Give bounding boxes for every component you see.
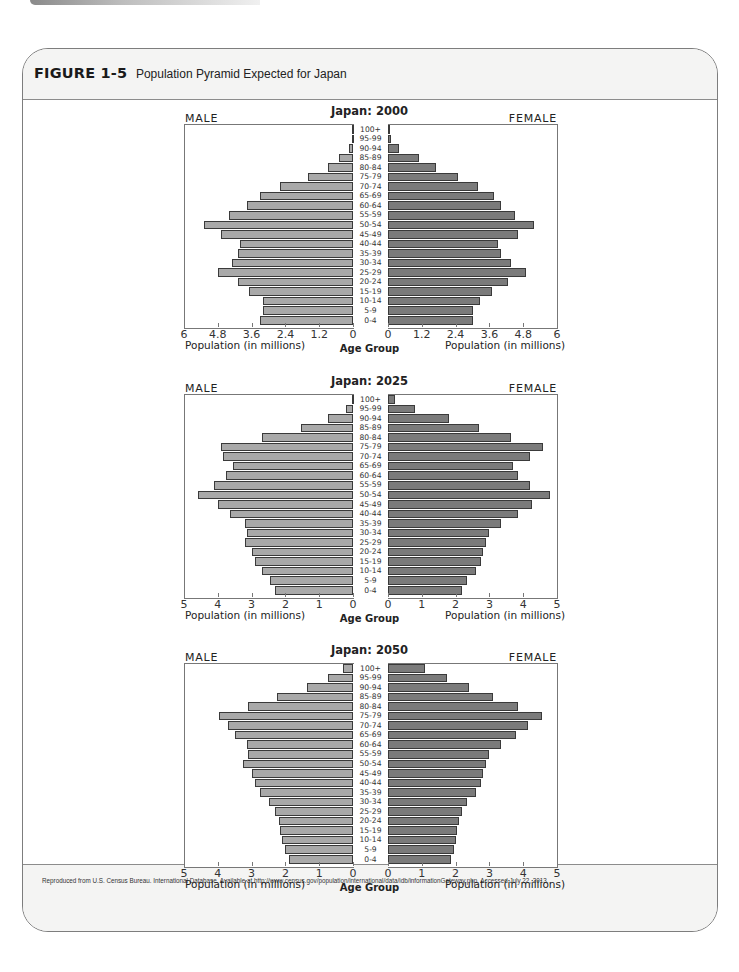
age-group-axis-title: Age Group	[0, 882, 739, 893]
age-group-label: 5-9	[353, 845, 388, 855]
age-group-label: 20-24	[353, 547, 388, 557]
age-group-label: 30-34	[353, 797, 388, 807]
male-bar	[247, 529, 353, 538]
male-bar	[249, 287, 353, 296]
male-bar	[308, 173, 353, 182]
male-bar	[226, 471, 353, 480]
pyramid-2050: Japan: 2050MALEFEMALE100+95-9990-9485-89…	[0, 643, 739, 903]
female-bar	[388, 702, 518, 711]
age-group-label: 95-99	[353, 404, 388, 414]
age-group-label: 100+	[353, 125, 388, 135]
male-axis-tick	[285, 323, 286, 327]
age-group-label: 55-59	[353, 749, 388, 759]
age-group-axis-title: Age Group	[0, 343, 739, 354]
male-bar	[248, 750, 353, 759]
age-group-label: 75-79	[353, 711, 388, 721]
female-bar	[388, 316, 473, 325]
male-bar	[247, 201, 353, 210]
female-bar	[388, 817, 459, 826]
male-bar	[252, 548, 353, 557]
female-bar	[388, 664, 425, 673]
male-axis-tick	[184, 862, 185, 866]
male-bar	[223, 452, 353, 461]
male-bar	[221, 443, 353, 452]
male-bar	[233, 462, 353, 471]
male-bar	[219, 712, 353, 721]
female-bar	[388, 586, 462, 595]
chart-title: Japan: 2000	[0, 104, 739, 118]
female-bar	[388, 144, 399, 153]
male-tick-label: 0	[338, 598, 368, 611]
age-group-label: 0-4	[353, 586, 388, 596]
female-bar	[388, 693, 493, 702]
female-bar	[388, 798, 467, 807]
age-group-label: 50-54	[353, 220, 388, 230]
age-group-label: 0-4	[353, 855, 388, 865]
age-group-label: 85-89	[353, 423, 388, 433]
male-axis-tick	[218, 323, 219, 327]
male-bar	[255, 779, 353, 788]
age-group-label: 80-84	[353, 163, 388, 173]
male-axis-tick	[319, 593, 320, 597]
female-bar	[388, 845, 454, 854]
male-bar	[269, 798, 354, 807]
female-bar	[388, 163, 436, 172]
female-bar	[388, 760, 486, 769]
male-bar	[339, 154, 353, 163]
male-tick-label: 1	[304, 867, 334, 880]
male-bar	[204, 221, 353, 230]
male-axis-tick	[319, 323, 320, 327]
male-bar	[277, 693, 353, 702]
male-bar	[262, 567, 353, 576]
age-group-label: 80-84	[353, 433, 388, 443]
figure-title: Population Pyramid Expected for Japan	[136, 67, 347, 81]
male-bar	[248, 702, 353, 711]
male-bar	[301, 424, 353, 433]
female-bar	[388, 443, 543, 452]
female-bar	[388, 297, 480, 306]
male-bar	[270, 576, 353, 585]
age-group-label: 95-99	[353, 673, 388, 683]
female-bar	[388, 395, 395, 404]
figure-number: FIGURE 1-5	[34, 65, 127, 81]
female-axis-tick	[456, 593, 457, 597]
female-bar	[388, 135, 391, 144]
male-bar	[240, 240, 353, 249]
female-bar	[388, 779, 481, 788]
age-group-label: 45-49	[353, 230, 388, 240]
male-axis-tick	[252, 862, 253, 866]
female-bar	[388, 471, 518, 480]
female-bar	[388, 683, 469, 692]
female-bar	[388, 268, 526, 277]
female-bar	[388, 154, 419, 163]
age-group-label: 15-19	[353, 826, 388, 836]
female-axis-tick	[456, 862, 457, 866]
age-group-label: 65-69	[353, 461, 388, 471]
female-tick-label: 1.2	[407, 328, 437, 341]
age-group-label: 25-29	[353, 268, 388, 278]
female-axis-tick	[489, 862, 490, 866]
age-group-label: 25-29	[353, 538, 388, 548]
male-axis-tick	[218, 862, 219, 866]
age-group-label: 20-24	[353, 277, 388, 287]
page-top-band	[30, 0, 260, 5]
chart-title: Japan: 2050	[0, 643, 739, 657]
male-bar	[260, 192, 353, 201]
age-group-label: 75-79	[353, 172, 388, 182]
age-group-label: 75-79	[353, 442, 388, 452]
male-bar	[280, 826, 353, 835]
female-bar	[388, 510, 518, 519]
male-bar	[245, 519, 353, 528]
age-group-label: 100+	[353, 664, 388, 674]
age-group-label: 90-94	[353, 144, 388, 154]
female-bar	[388, 731, 516, 740]
male-bar	[228, 721, 353, 730]
male-axis-tick	[252, 593, 253, 597]
age-group-label: 70-74	[353, 182, 388, 192]
female-bar	[388, 500, 532, 509]
female-bar	[388, 249, 501, 258]
age-group-label: 25-29	[353, 807, 388, 817]
age-group-label: 45-49	[353, 769, 388, 779]
male-bar	[282, 836, 353, 845]
female-bar	[388, 855, 451, 864]
